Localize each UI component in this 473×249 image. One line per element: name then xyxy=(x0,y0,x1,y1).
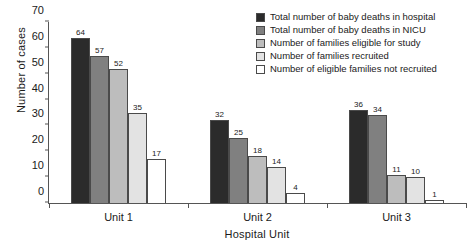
bar[interactable]: 1 xyxy=(425,200,444,203)
bar[interactable]: 57 xyxy=(90,56,109,203)
legend-swatch xyxy=(256,65,265,74)
bar-value-label: 36 xyxy=(354,101,363,111)
legend-label: Total number of baby deaths in NICU xyxy=(270,25,426,35)
legend-label: Number of eligible families not recruite… xyxy=(270,64,437,74)
legend-label: Number of families eligible for study xyxy=(270,38,420,48)
bar-value-label: 4 xyxy=(293,184,297,194)
legend-item[interactable]: Total number of baby deaths in hospital xyxy=(256,11,437,23)
bar-slot: 35 xyxy=(128,22,147,203)
bar-value-label: 32 xyxy=(215,111,224,121)
legend-item[interactable]: Number of eligible families not recruite… xyxy=(256,63,437,75)
y-axis-tick-label: 40 xyxy=(15,82,49,94)
bar[interactable]: 32 xyxy=(210,120,229,203)
bar-value-label: 34 xyxy=(373,106,382,116)
bar-value-label: 64 xyxy=(76,29,85,39)
y-axis-tick-label: 20 xyxy=(15,133,49,145)
bar[interactable]: 35 xyxy=(128,113,147,204)
legend: Total number of baby deaths in hospitalT… xyxy=(256,11,437,75)
x-axis-tick-label: Unit 3 xyxy=(327,211,466,223)
y-axis-tick-mark xyxy=(45,21,49,22)
y-axis-tick-mark xyxy=(45,72,49,73)
bar-slot: 57 xyxy=(90,22,109,203)
bar[interactable]: 18 xyxy=(248,156,267,203)
bar-value-label: 17 xyxy=(152,150,161,160)
x-axis-title: Hospital Unit xyxy=(48,228,466,240)
y-axis-tick-label: 60 xyxy=(15,30,49,42)
bar-value-label: 52 xyxy=(114,60,123,70)
bar-value-label: 57 xyxy=(95,47,104,57)
bar[interactable]: 52 xyxy=(109,69,128,203)
legend-item[interactable]: Number of families eligible for study xyxy=(256,37,437,49)
bar-value-label: 14 xyxy=(272,158,281,168)
x-axis-tick-label: Unit 2 xyxy=(188,211,327,223)
y-axis-tick-mark xyxy=(45,46,49,47)
y-axis-title: Number of cases xyxy=(15,0,27,145)
bar-slot: 25 xyxy=(229,22,248,203)
y-axis-tick-mark xyxy=(45,176,49,177)
bar[interactable]: 25 xyxy=(229,138,248,203)
bar-group: 6457523517Unit 1 xyxy=(49,22,188,203)
y-axis-tick-mark xyxy=(45,124,49,125)
y-axis-tick-label: 10 xyxy=(15,159,49,171)
bar-value-label: 18 xyxy=(253,147,262,157)
y-axis-tick-mark xyxy=(45,98,49,99)
legend-label: Total number of baby deaths in hospital xyxy=(270,12,435,22)
legend-swatch xyxy=(256,13,265,22)
bar[interactable]: 11 xyxy=(387,175,406,203)
x-axis-tick-mark xyxy=(49,203,50,208)
x-axis-tick-mark xyxy=(327,203,328,208)
y-axis-tick-label: 30 xyxy=(15,107,49,119)
legend-swatch xyxy=(256,26,265,35)
bar[interactable]: 10 xyxy=(406,177,425,203)
bar-value-label: 10 xyxy=(411,168,420,178)
x-axis-tick-mark xyxy=(466,203,467,208)
bar-value-label: 25 xyxy=(234,129,243,139)
bar-slot: 32 xyxy=(210,22,229,203)
bar-value-label: 1 xyxy=(432,191,436,201)
bar[interactable]: 4 xyxy=(286,193,305,203)
legend-swatch xyxy=(256,52,265,61)
bar-value-label: 35 xyxy=(133,104,142,114)
legend-swatch xyxy=(256,39,265,48)
x-axis-tick-mark xyxy=(188,203,189,208)
bar[interactable]: 34 xyxy=(368,115,387,203)
legend-label: Number of families recruited xyxy=(270,51,389,61)
bar[interactable]: 14 xyxy=(267,167,286,203)
y-axis-tick-mark xyxy=(45,150,49,151)
bar-chart: Number of cases 6457523517Unit 132251814… xyxy=(0,0,473,249)
legend-item[interactable]: Number of families recruited xyxy=(256,50,437,62)
bar-value-label: 11 xyxy=(392,166,400,176)
y-axis-tick-label: 0 xyxy=(15,185,49,197)
bar[interactable]: 36 xyxy=(349,110,368,203)
bar-slot: 52 xyxy=(109,22,128,203)
y-axis-tick-label: 50 xyxy=(15,56,49,68)
legend-item[interactable]: Total number of baby deaths in NICU xyxy=(256,24,437,36)
bar[interactable]: 64 xyxy=(71,38,90,203)
bar-slot: 17 xyxy=(147,22,166,203)
y-axis-tick-label: 70 xyxy=(15,4,49,16)
x-axis-tick-label: Unit 1 xyxy=(49,211,188,223)
bar[interactable]: 17 xyxy=(147,159,166,203)
bar-slot: 64 xyxy=(71,22,90,203)
